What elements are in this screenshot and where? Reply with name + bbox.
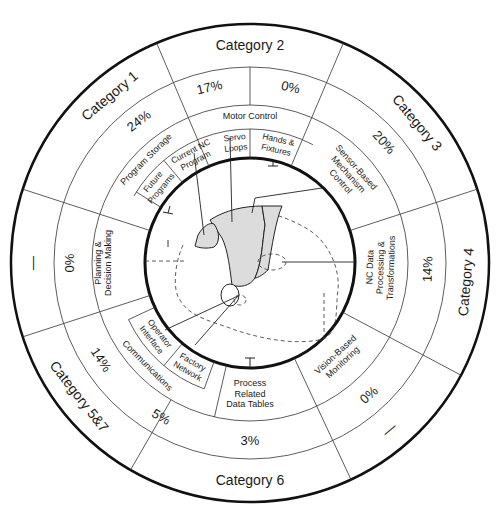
inner-cell-label: ServoLoops (222, 131, 247, 154)
percent-label: 14% (87, 345, 114, 375)
divider-line (350, 202, 437, 230)
frontal-lobe-shaded (195, 223, 219, 248)
inner-cell-label: OperatorInterface (137, 317, 174, 356)
divider-line (214, 365, 226, 417)
arrow-factory-network (195, 296, 238, 345)
percent-label: 24% (124, 107, 154, 135)
inner-cell-label: FuturePrograms (137, 164, 176, 205)
divider-line (327, 43, 344, 83)
percent-label: 5% (149, 406, 173, 429)
divider-line (436, 189, 477, 202)
arrow-current-nc-program (194, 153, 204, 235)
category-wheel-diagram: Category 2Category 3Category 4—Category … (0, 0, 500, 515)
percent-label: 17% (195, 77, 224, 98)
subfunction-label: Planning &Decision Making (93, 230, 114, 296)
category-label: — (23, 256, 39, 270)
subfunction-label: ProcessRelatedData Tables (226, 378, 274, 409)
divider-line (64, 202, 151, 230)
divider-line (157, 43, 174, 83)
divider-line (423, 355, 461, 375)
subfunction-label: Sensor-BasedMechanismControl (318, 143, 379, 206)
percent-label: 20% (370, 128, 399, 158)
percent-label: 14% (420, 256, 436, 283)
t-marker-future-programs (163, 206, 173, 214)
category-label: Category 1 (78, 67, 141, 123)
category-label: — (378, 418, 399, 439)
divider-line (333, 441, 351, 480)
arrow-vision-dashed (318, 293, 324, 340)
divider-line (129, 307, 155, 319)
category-label: Category 2 (216, 36, 285, 52)
inner-cell-label: FactoryNetwork (171, 350, 209, 384)
subfunction-label: NC DataProcessing &Transformations (364, 234, 397, 300)
arrow-operator-interface (165, 296, 238, 330)
divider-line (23, 189, 64, 202)
category-label: Category 4 (454, 247, 476, 317)
divider-line (23, 324, 64, 337)
category-label: Category 6 (216, 471, 285, 487)
percent-label: 3% (241, 433, 260, 448)
subfunction-label: Motor Control (223, 111, 278, 121)
divider-line (64, 295, 151, 323)
percent-label: 0% (357, 383, 381, 407)
percent-label: 0% (62, 253, 77, 272)
inner-cell-label: Current NCProgram (169, 137, 217, 175)
brain-illustration (145, 138, 355, 345)
percent-label: 0% (280, 78, 302, 97)
inner-cell-labels: ServoLoopsHands &FixturesCurrent NCProgr… (137, 131, 296, 384)
category-label: Category 3 (389, 91, 445, 154)
